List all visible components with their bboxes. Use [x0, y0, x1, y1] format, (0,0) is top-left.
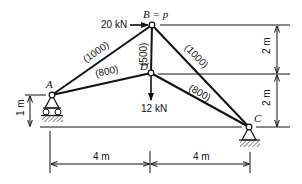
dim-bottom-right: 4 m: [193, 151, 210, 162]
node-d-label: D: [139, 60, 148, 72]
truss-diagram: (1000) (800) (500) (1000) (800) 20 kN 12…: [0, 0, 302, 184]
roller-left: [43, 109, 49, 115]
joint-c: [246, 124, 252, 130]
joint-d: [148, 70, 154, 76]
member-bc-label: (1000): [183, 42, 211, 70]
node-c-label: C: [254, 112, 262, 124]
joint-a: [49, 92, 55, 98]
joint-b: [149, 22, 155, 28]
node-a-label: A: [45, 78, 53, 90]
roller-right: [55, 109, 61, 115]
dim-left-height: 1 m: [15, 99, 26, 116]
load-label-20kn: 20 kN: [101, 19, 127, 30]
ground-hatch-c: [240, 141, 260, 147]
load-label-12kn: 12 kN: [141, 103, 167, 114]
support-a-roller: [41, 95, 63, 122]
member-dc: [151, 73, 249, 127]
member-bd: [151, 25, 152, 73]
dim-right-upper: 2 m: [261, 37, 272, 54]
ground-hatch-a: [42, 116, 63, 122]
dim-right-lower: 2 m: [261, 89, 272, 106]
node-b-label: B = p: [143, 8, 169, 20]
dim-bottom-left: 4 m: [93, 151, 110, 162]
member-ad-label: (800): [94, 63, 119, 79]
member-ab-label: (1000): [81, 39, 111, 65]
bottom-dimensions: [50, 131, 250, 173]
